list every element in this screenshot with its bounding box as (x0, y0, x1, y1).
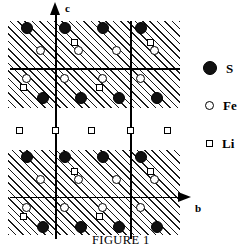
atom-s (97, 151, 109, 163)
atom-layer (0, 0, 245, 248)
legend-label-s: S (226, 62, 233, 75)
atom-s (59, 151, 71, 163)
atom-fe (150, 46, 159, 55)
atom-li (16, 127, 23, 134)
atom-li (88, 127, 95, 134)
open-square-icon (206, 140, 213, 147)
atom-li (20, 84, 27, 91)
atom-s (21, 151, 33, 163)
legend-item-fe: Fe (205, 99, 237, 112)
atom-fe (150, 175, 159, 184)
atom-fe (36, 175, 45, 184)
legend-label-fe: Fe (223, 99, 237, 112)
atom-fe (136, 203, 145, 212)
crystal-structure-figure: c b S Fe Li FIGURE 1 (0, 0, 245, 248)
legend-label-li: Li (222, 137, 234, 150)
atom-s (135, 22, 147, 34)
atom-li (20, 213, 27, 220)
atom-fe (112, 175, 121, 184)
filled-circle-icon (203, 61, 217, 75)
legend-item-s: S (203, 61, 233, 75)
atom-s (75, 92, 87, 104)
atom-s (59, 22, 71, 34)
atom-s (37, 92, 49, 104)
atom-s (135, 151, 147, 163)
atom-s (97, 22, 109, 34)
atom-li (96, 84, 103, 91)
atom-s (151, 221, 163, 233)
atom-fe (98, 74, 107, 83)
atom-li (71, 168, 78, 175)
atom-s (75, 221, 87, 233)
atom-fe (22, 203, 31, 212)
atom-fe (60, 203, 69, 212)
legend-item-li: Li (206, 137, 234, 150)
atom-fe (22, 74, 31, 83)
atom-li (147, 39, 154, 46)
atom-li (52, 127, 59, 134)
atom-fe (136, 74, 145, 83)
atom-s (113, 221, 125, 233)
atom-fe (74, 175, 83, 184)
atom-li (71, 39, 78, 46)
open-circle-icon (205, 101, 214, 110)
atom-li (127, 127, 134, 134)
atom-li (147, 168, 154, 175)
atom-li (96, 213, 103, 220)
atom-fe (36, 46, 45, 55)
atom-fe (74, 46, 83, 55)
atom-li (164, 127, 171, 134)
atom-s (37, 221, 49, 233)
atom-fe (112, 46, 121, 55)
atom-s (21, 22, 33, 34)
atom-s (113, 92, 125, 104)
atom-fe (60, 74, 69, 83)
atom-fe (98, 203, 107, 212)
figure-caption: FIGURE 1 (92, 233, 150, 248)
atom-s (151, 92, 163, 104)
